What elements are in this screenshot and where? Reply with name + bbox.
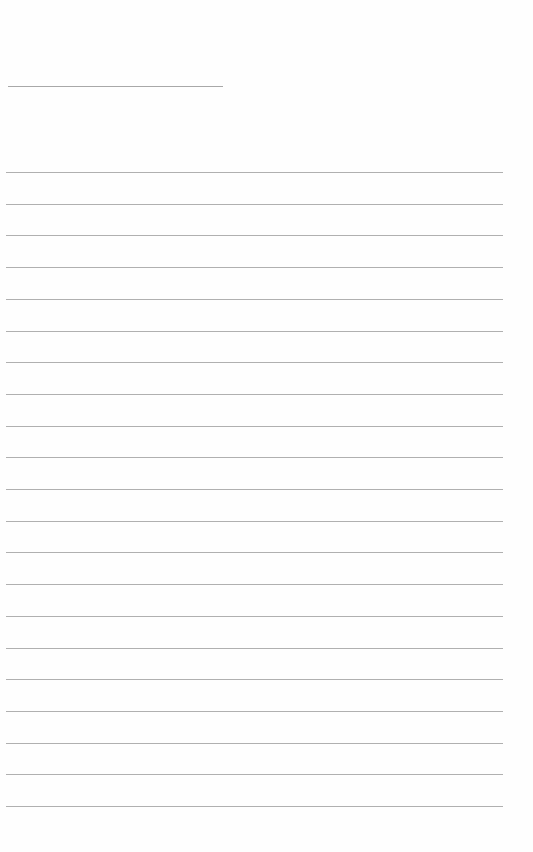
lined-page	[0, 0, 533, 852]
ruled-line	[6, 616, 503, 617]
ruled-line	[6, 521, 503, 522]
ruled-line	[6, 679, 503, 680]
ruled-line	[6, 648, 503, 649]
ruled-line	[6, 774, 503, 775]
ruled-line	[6, 204, 503, 205]
ruled-line	[6, 299, 503, 300]
title-line	[8, 86, 223, 87]
ruled-line	[6, 584, 503, 585]
ruled-line	[6, 394, 503, 395]
ruled-line	[6, 711, 503, 712]
ruled-line	[6, 172, 503, 173]
ruled-line	[6, 806, 503, 807]
ruled-line	[6, 489, 503, 490]
ruled-line	[6, 457, 503, 458]
ruled-line	[6, 331, 503, 332]
ruled-line	[6, 362, 503, 363]
ruled-line	[6, 743, 503, 744]
ruled-line	[6, 552, 503, 553]
ruled-line	[6, 426, 503, 427]
ruled-line	[6, 235, 503, 236]
ruled-line	[6, 267, 503, 268]
